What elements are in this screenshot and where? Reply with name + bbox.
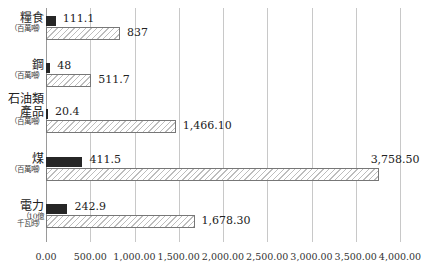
gridline — [312, 8, 313, 242]
value-label-hatched: 511.7 — [98, 73, 130, 86]
bar-dark — [46, 109, 48, 119]
bar-hatched — [46, 215, 195, 228]
category-label: 煤（百萬噸） — [0, 153, 44, 173]
x-tick-label: 2,500.00 — [246, 251, 288, 262]
category-unit: （百萬噸） — [0, 118, 44, 126]
category-name: 石油類 — [0, 93, 44, 106]
category-name: 鋼 — [0, 59, 44, 72]
bar-hatched — [46, 120, 176, 133]
category-label: 糧食（百萬噸） — [0, 12, 44, 32]
x-tick-label: 0.00 — [35, 251, 56, 262]
value-label-dark: 48 — [57, 59, 71, 72]
x-tick-label: 3,500.00 — [335, 251, 377, 262]
value-label-dark: 111.1 — [63, 12, 95, 25]
value-label-hatched: 837 — [127, 26, 148, 39]
value-label-dark: 20.4 — [55, 105, 80, 118]
gridline — [400, 8, 401, 242]
bar-hatched — [46, 74, 91, 87]
bar-dark — [46, 157, 82, 167]
gridline — [179, 8, 180, 242]
value-label-hatched: 1,678.30 — [202, 214, 251, 227]
x-tick-label: 1,500.00 — [158, 251, 200, 262]
bar-dark — [46, 204, 67, 214]
x-tick-label: 2,000.00 — [202, 251, 244, 262]
category-label: 電力（10億千瓦時） — [0, 200, 44, 228]
category-label: 石油類產品（百萬噸） — [0, 93, 44, 126]
bar-hatched — [46, 27, 120, 40]
gridline — [356, 8, 357, 242]
value-label-hatched: 1,466.10 — [183, 119, 232, 132]
category-name: 糧食 — [0, 12, 44, 25]
category-unit: （百萬噸） — [0, 25, 44, 33]
gridline — [267, 8, 268, 242]
value-label-dark: 242.9 — [74, 200, 106, 213]
bar-dark — [46, 16, 56, 26]
bar-dark — [46, 63, 50, 73]
bar-hatched — [46, 168, 379, 181]
category-label: 鋼（百萬噸） — [0, 59, 44, 79]
category-name: 電力 — [0, 200, 44, 213]
x-tick-label: 1,000.00 — [113, 251, 155, 262]
value-label-hatched: 3,758.50 — [371, 153, 420, 166]
category-unit: （百萬噸） — [0, 166, 44, 174]
x-tick-label: 3,000.00 — [290, 251, 332, 262]
x-tick-label: 500.00 — [74, 251, 107, 262]
value-label-dark: 411.5 — [89, 153, 121, 166]
category-name: 煤 — [0, 153, 44, 166]
x-tick-label: 4,000.00 — [379, 251, 421, 262]
category-unit: （百萬噸） — [0, 72, 44, 80]
category-unit: 千瓦時） — [0, 220, 44, 228]
